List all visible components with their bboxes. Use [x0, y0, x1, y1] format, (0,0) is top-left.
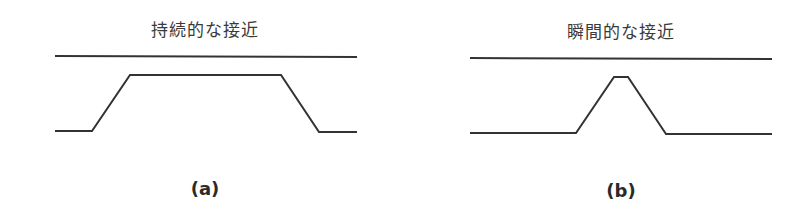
panel-a-title: 持続的な接近 [151, 16, 259, 41]
panel-b-graphic [470, 58, 772, 134]
panel-a-sustained-approach-profile [55, 75, 357, 132]
figure-lines [0, 0, 808, 215]
approach-comparison-figure: 持続的な接近 (a) 瞬間的な接近 (b) [0, 0, 808, 215]
panel-b-top-line [470, 58, 772, 59]
panel-a-top-line [55, 56, 357, 57]
panel-a-label: (a) [191, 178, 220, 199]
panel-b-momentary-approach-profile [470, 77, 772, 134]
panel-b-title: 瞬間的な接近 [567, 18, 675, 43]
panel-a-graphic [55, 56, 357, 132]
panel-b-label: (b) [606, 180, 635, 201]
